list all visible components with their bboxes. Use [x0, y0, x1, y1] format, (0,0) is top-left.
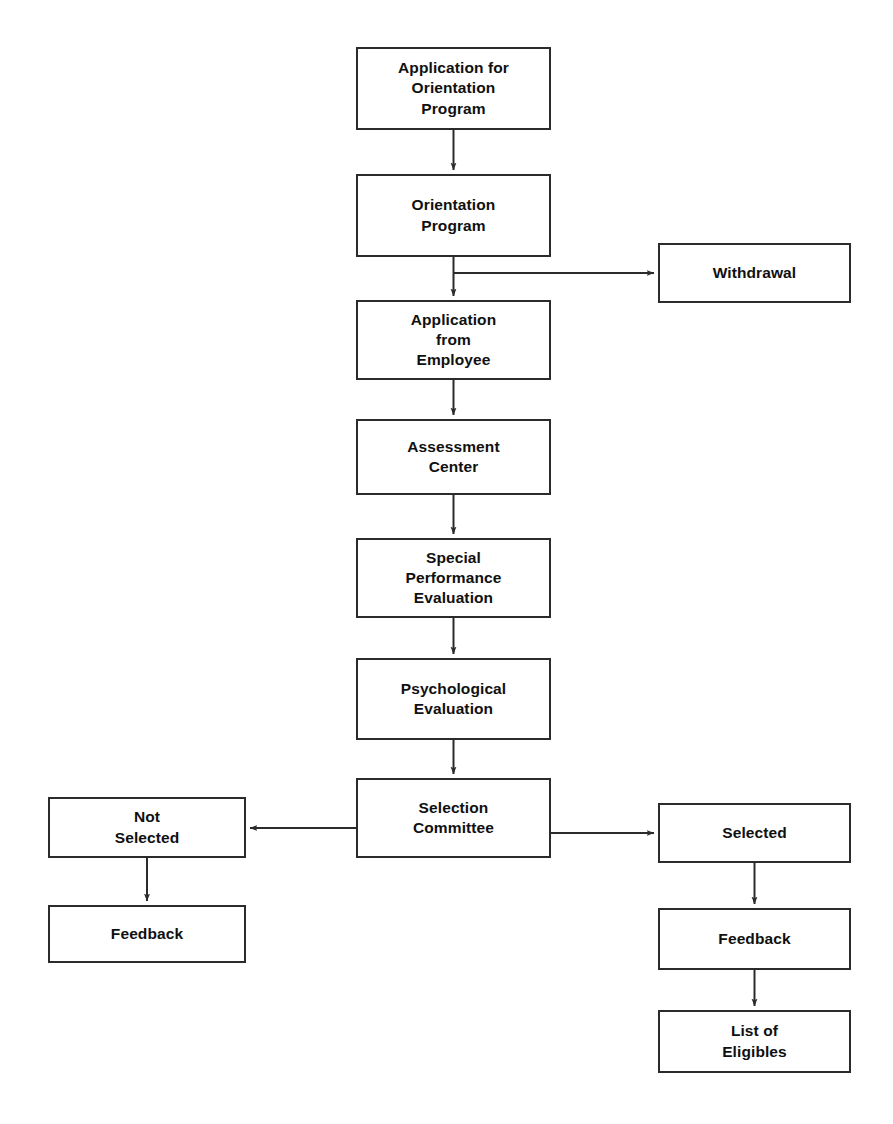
node-label: Special Performance Evaluation — [400, 548, 508, 608]
node-label: Selection Committee — [407, 798, 500, 838]
node-orientation-program[interactable]: Orientation Program — [356, 174, 551, 257]
node-application-for-orientation-program[interactable]: Application for Orientation Program — [356, 47, 551, 130]
node-label: Not Selected — [109, 807, 186, 847]
node-selection-committee[interactable]: Selection Committee — [356, 778, 551, 858]
node-list-of-eligibles[interactable]: List of Eligibles — [658, 1010, 851, 1073]
node-label: List of Eligibles — [716, 1021, 793, 1061]
node-application-from-employee[interactable]: Application from Employee — [356, 300, 551, 380]
node-not-selected[interactable]: Not Selected — [48, 797, 246, 858]
node-special-performance-evaluation[interactable]: Special Performance Evaluation — [356, 538, 551, 618]
node-label: Orientation Program — [406, 195, 502, 235]
node-feedback-selected[interactable]: Feedback — [658, 908, 851, 970]
node-selected[interactable]: Selected — [658, 803, 851, 863]
node-feedback-not-selected[interactable]: Feedback — [48, 905, 246, 963]
flowchart-canvas: Application for Orientation Program Orie… — [0, 0, 893, 1124]
node-label: Feedback — [712, 929, 796, 949]
node-withdrawal[interactable]: Withdrawal — [658, 243, 851, 303]
node-label: Withdrawal — [707, 263, 803, 283]
node-label: Psychological Evaluation — [395, 679, 513, 719]
node-label: Feedback — [105, 924, 189, 944]
node-label: Application from Employee — [405, 310, 503, 370]
node-label: Application for Orientation Program — [392, 58, 515, 118]
node-assessment-center[interactable]: Assessment Center — [356, 419, 551, 495]
node-label: Assessment Center — [401, 437, 505, 477]
node-psychological-evaluation[interactable]: Psychological Evaluation — [356, 658, 551, 740]
node-label: Selected — [716, 823, 793, 843]
